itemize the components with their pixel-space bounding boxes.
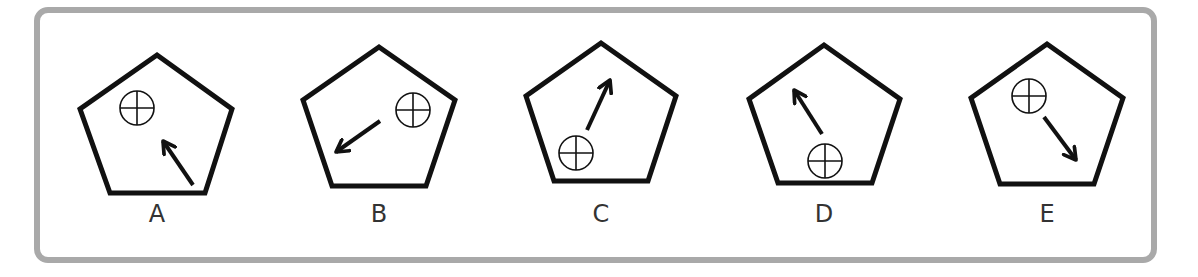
option-label-a[interactable]: A	[137, 200, 177, 228]
option-label-d[interactable]: D	[804, 200, 844, 228]
option-figure-a[interactable]	[80, 55, 232, 193]
pentagon-shape	[80, 55, 232, 193]
option-label-c[interactable]: C	[581, 200, 621, 228]
pentagon-shape	[526, 43, 676, 181]
crossed-circle-icon	[808, 144, 842, 178]
option-label-b[interactable]: B	[359, 200, 399, 228]
arrow-icon	[1044, 117, 1076, 160]
arrow-icon	[336, 121, 380, 152]
option-figure-e[interactable]	[971, 44, 1123, 184]
crossed-circle-icon	[120, 91, 154, 125]
option-label-e[interactable]: E	[1027, 200, 1067, 228]
arrow-icon	[794, 90, 822, 134]
crossed-circle-icon	[1012, 79, 1046, 113]
arrow-icon	[163, 141, 193, 185]
pentagon-shape	[971, 44, 1123, 184]
option-figure-d[interactable]	[749, 45, 900, 183]
option-figure-c[interactable]	[526, 43, 676, 181]
arrow-icon	[587, 80, 610, 130]
crossed-circle-icon	[559, 136, 593, 170]
pentagon-shape	[303, 47, 455, 186]
crossed-circle-icon	[396, 93, 430, 127]
option-figure-b[interactable]	[303, 47, 455, 186]
figures-canvas	[0, 0, 1198, 277]
